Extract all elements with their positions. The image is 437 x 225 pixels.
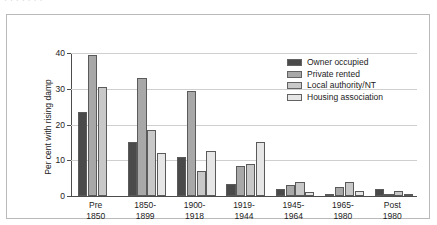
x-axis-line [71, 196, 417, 197]
bar [256, 142, 265, 196]
chart-legend: Owner occupiedPrivate rentedLocal author… [287, 57, 415, 103]
x-tick-label: Pre1850 [68, 200, 124, 222]
bar-group [177, 53, 216, 196]
legend-item: Owner occupied [287, 57, 415, 69]
bar [197, 171, 206, 196]
bar [88, 55, 97, 196]
bar [335, 187, 344, 196]
y-tick-label: 0 [41, 192, 65, 200]
y-tick-mark [67, 53, 71, 54]
bar [295, 182, 304, 196]
legend-swatch-icon [287, 59, 302, 66]
bar [137, 78, 146, 196]
chart-figure-frame: Per cent with rising damp 010203040 Pre1… [6, 14, 430, 219]
bar [187, 91, 196, 196]
legend-label: Housing association [307, 93, 383, 102]
bar [226, 184, 235, 197]
legend-item: Private rented [287, 69, 415, 81]
bar [177, 157, 186, 196]
x-tick-label: 1965-1980 [315, 200, 371, 222]
bar [286, 185, 295, 196]
bar-group [128, 53, 167, 196]
bar-group [78, 53, 117, 196]
x-tick-label: 1919-1944 [216, 200, 272, 222]
bar [98, 87, 107, 196]
y-tick-label: 20 [41, 121, 65, 129]
bar [276, 189, 285, 196]
y-tick-mark [67, 196, 71, 197]
bar [78, 112, 87, 196]
bar [325, 194, 334, 196]
legend-swatch-icon [287, 94, 302, 101]
y-tick-label: 30 [41, 85, 65, 93]
bar [394, 191, 403, 196]
bar [128, 142, 137, 196]
bar [384, 194, 393, 196]
cut-off-caption-strip: · · · · · · · [0, 0, 437, 13]
bar-group [226, 53, 265, 196]
x-tick-label: 1850-1899 [117, 200, 173, 222]
legend-label: Local authority/NT [307, 81, 376, 90]
bar [157, 153, 166, 196]
y-tick-label: 10 [41, 156, 65, 164]
bar [206, 151, 215, 196]
legend-label: Owner occupied [307, 58, 368, 67]
legend-item: Housing association [287, 92, 415, 104]
bar [246, 164, 255, 196]
y-tick-mark [67, 125, 71, 126]
x-tick-label: 1900-1918 [167, 200, 223, 222]
legend-item: Local authority/NT [287, 80, 415, 92]
bar [345, 182, 354, 196]
x-tick-label: 1945-1964 [265, 200, 321, 222]
bar [147, 130, 156, 196]
x-axis-tick-labels: Pre18501850-18991900-19181919-19441945-1… [71, 200, 417, 225]
bar [236, 166, 245, 196]
bar [375, 189, 384, 196]
bar [355, 191, 364, 196]
legend-swatch-icon [287, 82, 302, 89]
cut-off-caption-text: · · · · · · · [4, 0, 43, 5]
y-tick-mark [67, 89, 71, 90]
legend-swatch-icon [287, 71, 302, 78]
legend-label: Private rented [307, 70, 360, 79]
bar [305, 192, 314, 196]
y-tick-mark [67, 160, 71, 161]
bar [404, 194, 413, 196]
y-tick-label: 40 [41, 49, 65, 57]
x-tick-label: Post1980 [364, 200, 420, 222]
